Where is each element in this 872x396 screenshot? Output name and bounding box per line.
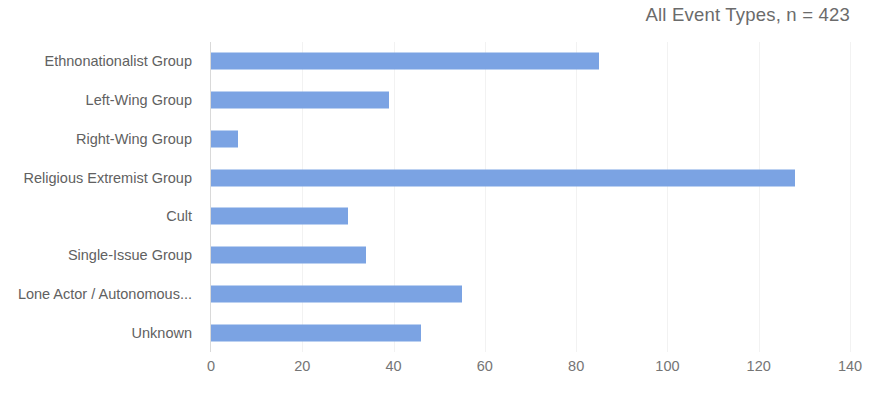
category-label: Unknown <box>0 326 192 341</box>
bar-row[interactable] <box>211 313 850 352</box>
value-tick-label: 80 <box>568 358 584 374</box>
plot-area <box>211 42 850 352</box>
category-label: Single-Issue Group <box>0 248 192 263</box>
value-tick-label: 40 <box>385 358 401 374</box>
value-tick-label: 140 <box>838 358 862 374</box>
bar-row[interactable] <box>211 197 850 236</box>
value-tick-label: 120 <box>747 358 771 374</box>
bar[interactable] <box>211 92 389 109</box>
value-tick-label: 100 <box>655 358 679 374</box>
value-tick-label: 20 <box>294 358 310 374</box>
category-label: Left-Wing Group <box>0 93 192 108</box>
bar-chart: All Event Types, n = 423 Ethnonationalis… <box>0 0 872 396</box>
bar[interactable] <box>211 53 599 70</box>
bar-row[interactable] <box>211 81 850 120</box>
bar[interactable] <box>211 169 795 186</box>
chart-title: All Event Types, n = 423 <box>646 4 851 26</box>
category-label: Cult <box>0 209 192 224</box>
value-tick-label: 60 <box>477 358 493 374</box>
category-label: Ethnonationalist Group <box>0 54 192 69</box>
bar-row[interactable] <box>211 158 850 197</box>
value-tick-label: 0 <box>207 358 215 374</box>
bar[interactable] <box>211 130 238 147</box>
bar-row[interactable] <box>211 275 850 314</box>
bar-row[interactable] <box>211 120 850 159</box>
bar[interactable] <box>211 208 348 225</box>
gridline <box>850 42 851 352</box>
category-label: Lone Actor / Autonomous... <box>0 287 192 302</box>
bar[interactable] <box>211 285 462 302</box>
bar[interactable] <box>211 247 366 264</box>
category-label: Religious Extremist Group <box>0 171 192 186</box>
value-axis-labels: 020406080100120140 <box>211 358 850 386</box>
bar-row[interactable] <box>211 236 850 275</box>
category-label: Right-Wing Group <box>0 132 192 147</box>
bar[interactable] <box>211 324 421 341</box>
bar-row[interactable] <box>211 42 850 81</box>
